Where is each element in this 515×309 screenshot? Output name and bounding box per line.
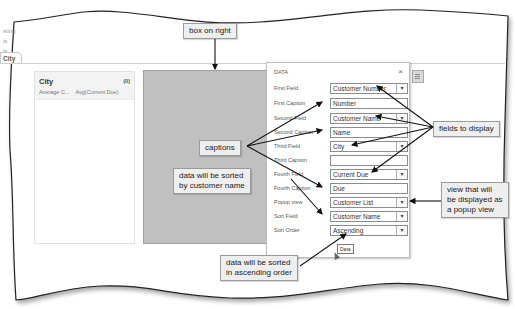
field-label: First Caption bbox=[274, 100, 305, 106]
fourth-field-dropdown[interactable]: Current Due▾ bbox=[330, 169, 408, 180]
dropdown-value: Customer Number bbox=[333, 85, 386, 92]
dropdown-value: City bbox=[333, 143, 344, 150]
field-row-third-field: Third Field City▾ bbox=[274, 141, 404, 153]
callout-box-on-right: box on right bbox=[183, 23, 237, 39]
field-row-first-caption: First Caption Number bbox=[274, 98, 404, 110]
chevron-down-icon[interactable]: ▾ bbox=[396, 212, 407, 221]
dialog-title: DATA bbox=[274, 69, 288, 75]
chevron-down-icon[interactable]: ▾ bbox=[396, 170, 407, 179]
field-row-popup-view: Popup view Customer List▾ bbox=[274, 197, 404, 209]
field-row-third-caption: Third Caption bbox=[274, 155, 404, 167]
list-count: (0) bbox=[123, 78, 130, 84]
field-label: Third Caption bbox=[274, 157, 307, 163]
callout-sorted-by-name: data will be sorted by customer name bbox=[173, 168, 251, 194]
list-header: City (0) Average C...Avg(Current Due) bbox=[35, 72, 134, 100]
field-label: Second Caption bbox=[274, 129, 313, 135]
sort-field-dropdown[interactable]: Customer Name▾ bbox=[330, 211, 408, 222]
second-caption-input[interactable]: Name bbox=[330, 127, 408, 138]
field-row-fourth-caption: Fourth Caption Due bbox=[274, 183, 404, 195]
callout-ascending: data will be sorted in ascending order bbox=[220, 255, 298, 281]
callout-line: a popup view bbox=[447, 205, 503, 215]
dropdown-value: Customer List bbox=[333, 199, 373, 206]
tab-divider bbox=[0, 63, 505, 64]
list-summary-row: Average C...Avg(Current Due) bbox=[39, 89, 130, 95]
second-field-dropdown[interactable]: Customer Name▾ bbox=[330, 113, 408, 124]
first-caption-input[interactable]: Number bbox=[330, 98, 408, 109]
first-field-dropdown[interactable]: Customer Number▾ bbox=[330, 83, 408, 94]
field-label: Sort Field bbox=[274, 213, 298, 219]
tab-label: City bbox=[3, 55, 15, 62]
field-row-second-field: Second Field Customer Name▾ bbox=[274, 113, 404, 125]
field-label: Fourth Field bbox=[274, 171, 303, 177]
chevron-down-icon[interactable]: ▾ bbox=[396, 226, 407, 235]
field-row-fourth-field: Fourth Field Current Due▾ bbox=[274, 169, 404, 181]
callout-captions: captions bbox=[199, 140, 241, 156]
dropdown-value: Customer Name bbox=[333, 213, 380, 220]
list-panel[interactable]: City (0) Average C...Avg(Current Due) bbox=[34, 71, 135, 244]
third-caption-input[interactable] bbox=[330, 155, 408, 166]
field-row-sort-order: Sort Order Ascending▾ bbox=[274, 225, 404, 237]
third-field-dropdown[interactable]: City▾ bbox=[330, 141, 408, 152]
callout-line: by customer name bbox=[179, 181, 245, 191]
field-row-second-caption: Second Caption Name bbox=[274, 127, 404, 139]
sort-order-dropdown[interactable]: Ascending▾ bbox=[330, 225, 408, 236]
field-label: Second Field bbox=[274, 115, 306, 121]
edit-data-icon[interactable] bbox=[412, 70, 424, 83]
callout-line: data will be sorted bbox=[226, 258, 292, 268]
dropdown-value: Current Due bbox=[333, 171, 368, 178]
data-dialog: DATA × First Field Customer Number▾ Firs… bbox=[266, 62, 410, 258]
callout-line: view that will bbox=[447, 185, 503, 195]
callout-popup-view: view that will be displayed as a popup v… bbox=[441, 182, 509, 218]
field-label: Sort Order bbox=[274, 227, 300, 233]
field-row-first-field: First Field Customer Number▾ bbox=[274, 83, 404, 95]
partial-label: ls bbox=[3, 36, 16, 46]
summary-col2: Avg(Current Due) bbox=[75, 89, 118, 95]
field-label: Fourth Caption bbox=[274, 185, 310, 191]
callout-fields-to-display: fields to display bbox=[433, 121, 500, 137]
chevron-down-icon[interactable]: ▾ bbox=[396, 198, 407, 207]
list-title: City bbox=[39, 77, 130, 86]
popup-view-dropdown[interactable]: Customer List▾ bbox=[330, 197, 408, 208]
partial-label: sting bbox=[3, 26, 16, 36]
callout-line: in ascending order bbox=[226, 268, 292, 278]
dropdown-value: Customer Name bbox=[333, 115, 380, 122]
chevron-down-icon[interactable]: ▾ bbox=[396, 84, 407, 93]
field-row-sort-field: Sort Field Customer Name▾ bbox=[274, 211, 404, 223]
field-label: Popup view bbox=[274, 199, 302, 205]
field-label: Third Field bbox=[274, 143, 300, 149]
data-tooltip: Data bbox=[337, 244, 354, 254]
close-icon[interactable]: × bbox=[398, 67, 403, 76]
chevron-down-icon[interactable]: ▾ bbox=[396, 114, 407, 123]
dropdown-value: Ascending bbox=[333, 227, 363, 234]
chevron-down-icon[interactable]: ▾ bbox=[396, 142, 407, 151]
callout-line: be displayed as bbox=[447, 195, 503, 205]
summary-col1: Average C... bbox=[39, 89, 69, 95]
fourth-caption-input[interactable]: Due bbox=[330, 183, 408, 194]
field-label: First Field bbox=[274, 85, 298, 91]
callout-line: data will be sorted bbox=[179, 171, 245, 181]
